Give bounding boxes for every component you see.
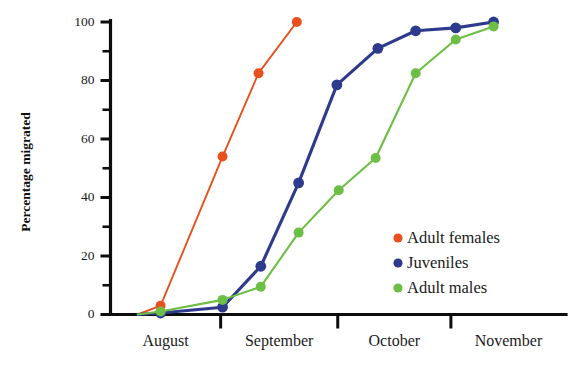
- y-tick-label: 100: [74, 14, 95, 29]
- legend-marker: [393, 233, 402, 242]
- chart-legend: Adult femalesJuvenilesAdult males: [393, 228, 500, 297]
- legend-label: Adult males: [407, 278, 487, 297]
- data-point: [410, 25, 421, 36]
- data-point: [218, 295, 228, 305]
- x-axis: AugustSeptemberOctoberNovember: [109, 315, 566, 350]
- legend-marker: [393, 283, 402, 292]
- data-point: [371, 153, 381, 163]
- data-point: [255, 261, 266, 272]
- data-point: [372, 43, 383, 54]
- data-point: [411, 68, 421, 78]
- y-tick-label: 0: [88, 306, 95, 321]
- data-point: [294, 228, 304, 238]
- legend-label: Juveniles: [407, 253, 468, 272]
- data-point: [334, 185, 344, 195]
- x-axis-month-label: November: [475, 332, 543, 349]
- legend-marker: [393, 258, 402, 267]
- data-point: [451, 35, 461, 45]
- y-tick-label: 80: [81, 72, 95, 87]
- x-axis-month-label: August: [142, 332, 189, 350]
- data-point: [156, 307, 166, 317]
- series-adult-males: [138, 21, 499, 316]
- y-axis: 020406080100: [74, 14, 110, 322]
- x-axis-month-label: October: [369, 332, 421, 349]
- data-point: [450, 22, 461, 33]
- y-axis-title-text: Percentage migrated: [18, 112, 33, 232]
- series-adult-females: [138, 17, 302, 315]
- x-axis-month-label: September: [245, 332, 314, 350]
- y-axis-title: Percentage migrated: [18, 112, 33, 232]
- data-point: [331, 79, 342, 90]
- legend-label: Adult females: [407, 228, 500, 247]
- y-tick-label: 40: [81, 189, 95, 204]
- data-point: [256, 282, 266, 292]
- data-point: [489, 21, 499, 31]
- data-point: [254, 68, 264, 78]
- data-series-group: [138, 17, 499, 319]
- y-tick-label: 20: [81, 248, 95, 263]
- data-point: [292, 17, 302, 27]
- chart-page: 020406080100 AugustSeptemberOctoberNovem…: [0, 0, 572, 372]
- series-juveniles: [138, 17, 499, 319]
- data-point: [218, 152, 228, 162]
- migration-line-chart: 020406080100 AugustSeptemberOctoberNovem…: [0, 0, 572, 372]
- y-tick-label: 60: [81, 131, 95, 146]
- data-point: [293, 177, 304, 188]
